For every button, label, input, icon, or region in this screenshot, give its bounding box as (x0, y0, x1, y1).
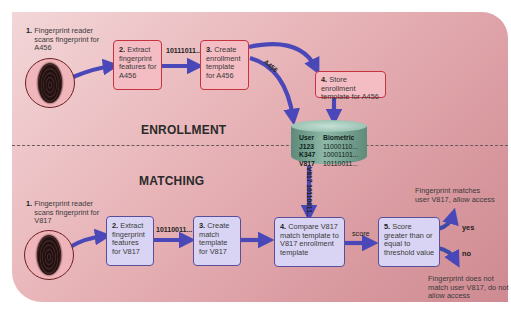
enroll-features-data: 10111011... (166, 47, 202, 54)
step-text: Score greater than or equal to threshold… (384, 222, 434, 257)
retrieved-template-label: V817 10110011... (306, 167, 313, 218)
match-step2-box: 2. Extract fingerprint features for V817 (106, 216, 154, 266)
enrollment-heading: ENROLLMENT (141, 123, 226, 137)
user-id: J123 (299, 143, 323, 152)
step-text: Compare V817 match template to V817 enro… (280, 222, 339, 257)
match-step3-box: 3. Create match template for V817 (193, 216, 241, 266)
yes-label: yes (462, 224, 474, 233)
header-user: User (299, 134, 323, 143)
step-number: 1. (26, 26, 32, 35)
no-outcome-text: Fingerprint does not match user V817, do… (428, 275, 510, 301)
biometric-value: 10001101... (323, 151, 358, 160)
database-header-row: User Biometric (299, 134, 358, 143)
matching-heading: MATCHING (139, 174, 204, 188)
match-step1-label: 1. Fingerprint reader scans fingerprint … (26, 200, 102, 226)
match-features-data: 10110011... (156, 226, 192, 233)
yes-outcome-text: Fingerprint matches user V817, allow acc… (415, 187, 495, 204)
step-text: Fingerprint reader scans fingerprint for… (34, 27, 102, 53)
step-text: Store enrollment template for A456 (321, 75, 379, 101)
biometric-value: 11000110... (323, 143, 358, 152)
match-step5-box: 5. Score greater than or equal to thresh… (378, 217, 440, 267)
enroll-step1-label: 1. Fingerprint reader scans fingerprint … (26, 27, 102, 53)
match-step4-box: 4. Compare V817 match template to V817 e… (274, 217, 345, 267)
biometric-database: User Biometric J123 11000110... K347 100… (291, 120, 367, 170)
score-label: score (352, 230, 370, 239)
enroll-step2-box: 2. Extract fingerprint features for A456 (113, 40, 162, 90)
step-text: Fingerprint reader scans fingerprint for… (34, 200, 102, 226)
no-label: no (462, 250, 471, 259)
step-text: Extract fingerprint features for A456 (119, 45, 156, 80)
database-table: User Biometric J123 11000110... K347 100… (299, 134, 358, 168)
header-biometric: Biometric (323, 134, 354, 143)
step-text: Create enrollment template for A456 (206, 45, 241, 80)
database-row: J123 11000110... (299, 143, 358, 152)
biometric-value: 10110011... (323, 160, 358, 169)
database-row: K347 10001101... (299, 151, 358, 160)
user-id: K347 (299, 151, 323, 160)
database-cylinder-top (291, 120, 367, 132)
step-number: 1. (26, 199, 32, 208)
fingerprint-icon-v817 (24, 230, 74, 280)
enroll-step4-box: 4. Store enrollment template for A456 (315, 71, 386, 98)
enroll-step3-box: 3. Create enrollment template for A456 (200, 40, 249, 90)
fingerprint-icon-a456 (25, 58, 75, 108)
